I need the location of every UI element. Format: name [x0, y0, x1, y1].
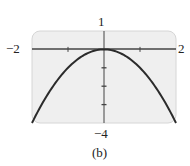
- x-max-label: 2: [178, 42, 185, 55]
- x-min-label: −2: [6, 42, 20, 55]
- y-min-label: −4: [94, 127, 108, 140]
- figure-caption: (b): [92, 146, 107, 159]
- graph-window: [0, 0, 190, 166]
- y-max-label: 1: [98, 15, 105, 28]
